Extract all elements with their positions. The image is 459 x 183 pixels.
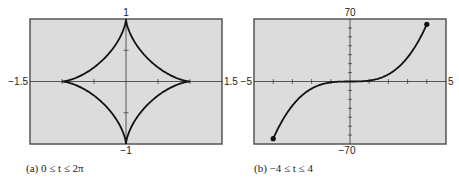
x-min-label-b: −5 bbox=[241, 76, 253, 87]
y-min-label-a: −1 bbox=[120, 145, 132, 156]
y-min-label-b: −70 bbox=[339, 145, 356, 156]
x-max-label-a: 1.5 bbox=[224, 76, 238, 87]
caption-a: (a) 0 ≤ t ≤ 2π bbox=[26, 162, 84, 175]
panel-b: −5 5 70 −70 (b) −4 ≤ t ≤ 4 bbox=[241, 7, 454, 175]
x-max-label-b: 5 bbox=[448, 76, 454, 87]
panel-a: −1.5 1.5 1 −1 (a) 0 ≤ t ≤ 2π bbox=[8, 7, 238, 175]
y-max-label-b: 70 bbox=[344, 7, 356, 18]
end-point bbox=[424, 22, 429, 27]
caption-b: (b) −4 ≤ t ≤ 4 bbox=[254, 162, 313, 175]
start-point bbox=[271, 136, 276, 141]
y-max-label-a: 1 bbox=[123, 7, 129, 18]
figure: −1.5 1.5 1 −1 (a) 0 ≤ t ≤ 2π −5 5 70 −70… bbox=[0, 0, 459, 183]
x-min-label-a: −1.5 bbox=[8, 76, 28, 87]
